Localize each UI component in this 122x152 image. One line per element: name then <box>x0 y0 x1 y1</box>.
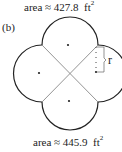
area-value: 445.9 <box>63 136 88 148</box>
area-exponent: 2 <box>91 0 95 7</box>
area-exponent: 2 <box>100 134 104 142</box>
left-arc <box>14 45 42 102</box>
radius-bracket <box>97 47 106 72</box>
area-unit: ft <box>84 1 91 13</box>
area-unit: ft <box>93 136 100 148</box>
area-value: 427.8 <box>54 1 79 13</box>
bottom-area-label: area ≈ 445.9 ft2 <box>33 137 103 148</box>
bottom-arc <box>42 102 98 130</box>
radius-label: r <box>108 54 112 66</box>
center-dot-bottom <box>68 100 70 102</box>
area-prefix: area ≈ <box>33 136 63 148</box>
top-area-label: area ≈ 427.8 ft2 <box>24 2 94 13</box>
four-lobe-diagram <box>0 0 122 152</box>
area-prefix: area ≈ <box>24 1 54 13</box>
top-arc <box>42 17 98 45</box>
panel-label: (b) <box>2 22 15 33</box>
center-dot-left <box>38 72 40 74</box>
center-dot-top <box>67 44 69 46</box>
